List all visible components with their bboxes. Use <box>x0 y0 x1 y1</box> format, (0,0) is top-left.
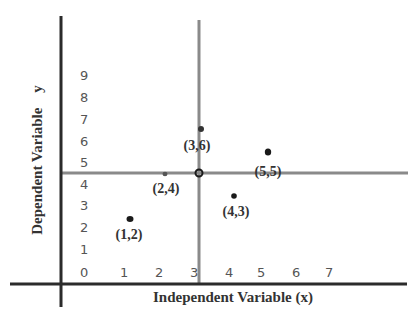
point-5-5 <box>265 149 271 156</box>
label-4-3: (4,3) <box>223 204 250 220</box>
x-tick-7: 7 <box>325 265 333 280</box>
x-tick-3: 3 <box>190 265 198 280</box>
y-tick-0: 0 <box>80 265 88 280</box>
y-tick-9: 9 <box>80 68 88 83</box>
y-tick-7: 7 <box>80 112 88 127</box>
y-tick-2: 2 <box>80 220 88 235</box>
y-tick-3: 3 <box>80 198 88 213</box>
y-tick-6: 6 <box>80 134 88 149</box>
label-1-2: (1,2) <box>116 227 143 243</box>
y-axis-title: Dependent Variable y <box>29 85 45 235</box>
point-3-6 <box>198 126 204 132</box>
x-tick-1: 1 <box>120 265 128 280</box>
point-1-2 <box>127 216 134 222</box>
x-tick-5: 5 <box>257 265 265 280</box>
scatter-chart: 9 8 7 6 5 4 3 2 1 0 0 1 2 3 4 5 6 7 (1,2… <box>0 0 417 317</box>
y-tick-5: 5 <box>80 155 88 170</box>
y-tick-8: 8 <box>80 90 88 105</box>
x-tick-4: 4 <box>225 265 233 280</box>
x-axis-title: Independent Variable (x) <box>153 289 313 306</box>
y-tick-1: 1 <box>80 242 88 257</box>
label-5-5: (5,5) <box>255 164 282 180</box>
x-tick-6: 6 <box>292 265 300 280</box>
point-2-4 <box>163 172 168 176</box>
y-tick-4: 4 <box>80 177 88 192</box>
x-tick-labels: 0 1 2 3 4 5 6 7 <box>80 265 333 280</box>
label-2-4: (2,4) <box>153 181 180 197</box>
x-tick-2: 2 <box>155 265 163 280</box>
point-4-3 <box>231 193 237 199</box>
label-3-6: (3,6) <box>184 138 211 154</box>
